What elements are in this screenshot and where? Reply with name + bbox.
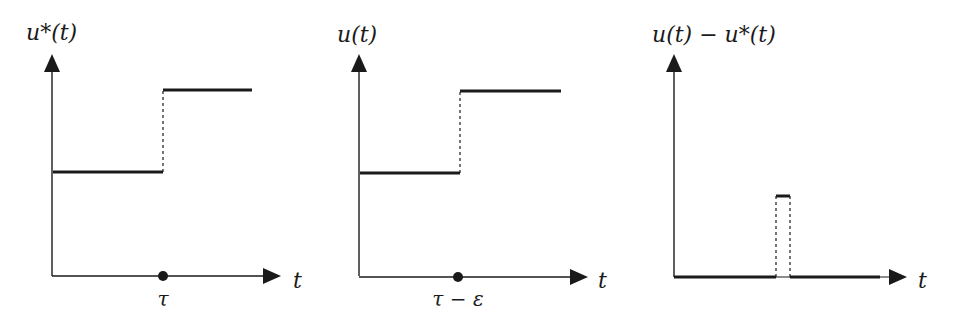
y-axis-arrow-icon — [351, 54, 367, 72]
x-axis-arrow-icon — [570, 269, 588, 285]
y-axis-label: u(t) − u*(t) — [652, 22, 776, 47]
tau-marker — [158, 271, 168, 281]
tau-minus-eps-marker — [453, 272, 463, 282]
y-axis-label: u(t) — [337, 22, 377, 47]
y-axis-arrow-icon — [44, 54, 60, 72]
x-axis-label: t — [293, 268, 302, 293]
y-axis-label: u*(t) — [26, 20, 77, 45]
x-axis-label: t — [598, 268, 607, 293]
panel-perturbed-control: u(t) t τ − ε — [337, 22, 607, 311]
y-axis-arrow-icon — [666, 54, 682, 72]
x-axis-label: t — [918, 268, 927, 293]
tick-label: τ — [157, 287, 169, 311]
x-axis-arrow-icon — [889, 269, 907, 285]
diagram: u*(t) t τ u(t) t τ − ε u(t) − u*(t) t — [0, 0, 959, 329]
x-axis-arrow-icon — [263, 268, 281, 284]
panel-optimal-control: u*(t) t τ — [26, 20, 302, 311]
tick-label: τ − ε — [432, 287, 483, 311]
panel-difference: u(t) − u*(t) t — [652, 22, 927, 293]
